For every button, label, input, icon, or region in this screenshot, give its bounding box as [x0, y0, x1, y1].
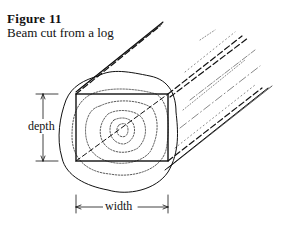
- beam-diagonal: [76, 94, 168, 161]
- log-beam-diagram: [0, 0, 296, 225]
- depth-label: depth: [26, 119, 57, 134]
- growth-rings: [72, 89, 168, 175]
- log-end-face: [59, 71, 177, 192]
- width-label: width: [103, 199, 134, 214]
